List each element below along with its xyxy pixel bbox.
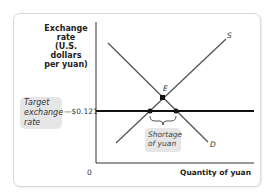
shortage-annotation-line: Shortage bbox=[148, 130, 182, 139]
y-axis-label: Exchange rate (U.S. dollars per yuan) bbox=[40, 24, 92, 69]
demand-intersection-point bbox=[174, 109, 179, 114]
target-annotation-line: rate bbox=[24, 118, 63, 128]
target-annotation-line: exchange bbox=[24, 108, 63, 118]
target-annotation: Target exchange rate bbox=[24, 98, 63, 128]
x-axis-label: Quantity of yuan bbox=[180, 168, 251, 177]
equilibrium-label: E bbox=[163, 84, 168, 93]
shortage-annotation-line: of yuan bbox=[148, 139, 182, 148]
shortage-brace bbox=[150, 116, 176, 125]
supply-intersection-point bbox=[148, 109, 153, 114]
equilibrium-point bbox=[160, 95, 165, 100]
shortage-annotation: Shortage of yuan bbox=[148, 130, 182, 148]
demand-label: D bbox=[210, 140, 216, 149]
y-axis-label-line: Exchange rate bbox=[40, 24, 92, 42]
y-axis-label-line: (U.S. dollars bbox=[40, 42, 92, 60]
origin-label: 0 bbox=[87, 168, 92, 177]
target-annotation-line: Target bbox=[24, 98, 63, 108]
supply-label: S bbox=[227, 31, 232, 40]
price-tick-label: —$0.121 bbox=[64, 107, 98, 116]
y-axis-label-line: per yuan) bbox=[40, 60, 92, 69]
